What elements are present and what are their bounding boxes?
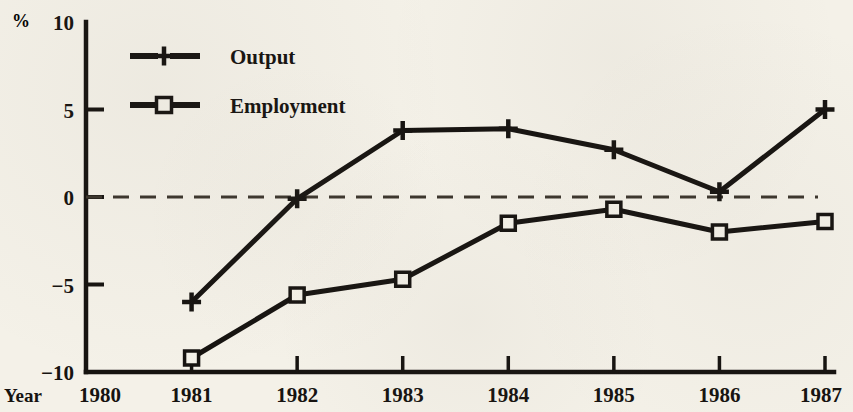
x-axis-tick-labels: 19801981198219831984198519861987 xyxy=(79,383,842,407)
x-axis-tick-label: 1985 xyxy=(593,383,635,407)
x-axis-tick-label: 1983 xyxy=(382,383,424,407)
x-axis-tick-label: 1986 xyxy=(698,383,740,407)
y-axis-tick-label: 10 xyxy=(53,11,74,35)
square-icon xyxy=(290,288,304,302)
y-axis-tick-labels: −10−50510 xyxy=(41,11,74,385)
line-chart-svg: −10−50510 198019811982198319841985198619… xyxy=(0,0,853,412)
x-axis-tick-label: 1984 xyxy=(487,383,530,407)
x-axis-tick-label: 1981 xyxy=(171,383,213,407)
square-icon xyxy=(396,272,410,286)
series-line-output xyxy=(192,110,825,303)
legend-label: Output xyxy=(230,45,295,69)
chart-legend: OutputEmployment xyxy=(130,45,346,118)
y-axis-tick-label: 5 xyxy=(64,99,75,123)
x-axis-ticks xyxy=(192,356,825,372)
y-axis-tick-label: −10 xyxy=(41,361,74,385)
square-icon xyxy=(501,216,515,230)
series-lines xyxy=(192,110,825,359)
square-icon xyxy=(607,202,621,216)
y-axis-tick-label: −5 xyxy=(52,274,74,298)
legend-entry-employment[interactable]: Employment xyxy=(130,94,346,118)
plus-icon xyxy=(604,140,623,159)
square-icon xyxy=(818,215,832,229)
y-axis-unit-label: % xyxy=(12,11,30,31)
x-axis-tick-label: 1982 xyxy=(276,383,318,407)
square-icon xyxy=(157,98,172,113)
square-icon xyxy=(185,351,199,365)
x-axis-tick-label: 1980 xyxy=(79,383,121,407)
chart-figure: −10−50510 198019811982198319841985198619… xyxy=(0,0,853,412)
plus-icon xyxy=(155,47,174,66)
legend-entry-output[interactable]: Output xyxy=(130,45,295,69)
x-axis-tick-label: 1987 xyxy=(800,383,842,407)
y-axis-tick-label: 0 xyxy=(64,186,75,210)
x-axis-title: Year xyxy=(4,385,43,406)
plus-icon xyxy=(499,119,518,138)
legend-label: Employment xyxy=(230,94,346,118)
square-icon xyxy=(712,225,726,239)
